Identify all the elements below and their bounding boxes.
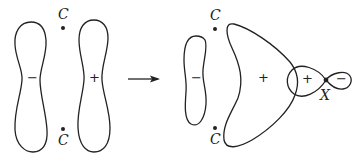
- x-minus-sign: −: [336, 72, 347, 85]
- right-top-carbon-dot: [213, 27, 217, 31]
- left-plus-lobe: [78, 20, 110, 152]
- right-bottom-carbon-dot: [213, 126, 217, 130]
- right-bottom-carbon-label: C: [210, 132, 221, 146]
- left-bottom-carbon-label: C: [58, 133, 69, 147]
- left-minus-sign: −: [27, 71, 38, 84]
- left-top-carbon-label: C: [58, 7, 69, 21]
- x-atom-dot: [324, 78, 329, 83]
- left-top-carbon-dot: [61, 26, 65, 30]
- x-plus-sign: +: [302, 72, 313, 85]
- right-top-carbon-label: C: [210, 8, 221, 22]
- right-plus-sign: +: [258, 71, 269, 84]
- right-minus-sign: −: [191, 71, 202, 84]
- right-plus-lobe: [224, 24, 298, 147]
- left-plus-sign: +: [89, 71, 100, 84]
- orbital-diagram: C C − + C C − + + − X: [0, 0, 358, 157]
- left-bottom-carbon-dot: [61, 127, 65, 131]
- left-minus-lobe: [15, 22, 47, 152]
- x-atom-label: X: [320, 88, 330, 102]
